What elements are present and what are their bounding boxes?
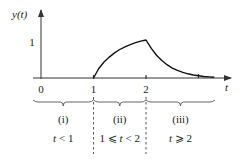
- x-axis-label: t: [225, 81, 229, 93]
- region-label: (i): [58, 113, 69, 126]
- y-tick-label: 1: [29, 36, 35, 48]
- y-axis-label: y(t): [11, 8, 28, 21]
- region-condition: 1 ⩽ t < 2: [100, 132, 140, 144]
- region-brace: [146, 100, 215, 106]
- region-condition: t < 1: [53, 132, 73, 144]
- region-label: (ii): [113, 113, 127, 126]
- response-curve: [94, 40, 215, 78]
- x-tick-label: 2: [143, 83, 149, 95]
- x-tick-label: 1: [91, 83, 97, 95]
- region-label: (iii): [172, 113, 189, 126]
- piecewise-response-diagram: y(t)t1012(i)t < 1(ii)1 ⩽ t < 2(iii)t ⩾ 2: [0, 0, 242, 160]
- region-brace: [33, 100, 94, 106]
- region-condition: t ⩾ 2: [169, 132, 192, 144]
- region-brace: [94, 100, 147, 106]
- x-tick-label: 0: [38, 83, 44, 95]
